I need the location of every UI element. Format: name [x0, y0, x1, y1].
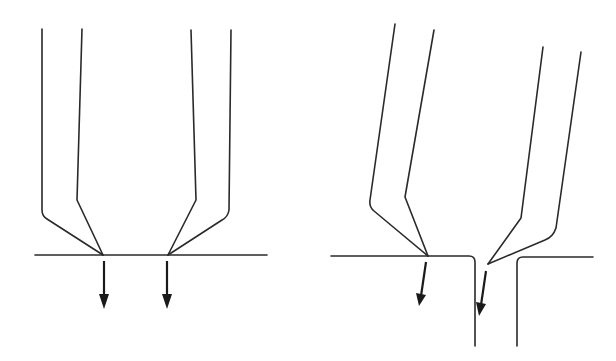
left-panel — [35, 29, 267, 309]
left-beam-inner-left — [77, 29, 103, 255]
left-arrow-1 — [99, 261, 109, 309]
right-beam-inner-right — [488, 47, 543, 264]
right-beam-outer-left — [370, 24, 428, 256]
left-beam-outer-right — [168, 30, 231, 255]
right-arrow-2 — [476, 271, 486, 316]
right-surface-left-with-slot — [331, 256, 475, 346]
left-beam-outer-left — [42, 29, 103, 255]
left-beam-inner-right — [168, 30, 196, 255]
right-surface-right-with-slot — [517, 257, 593, 346]
diagram-canvas — [0, 0, 616, 361]
right-beam-outer-right — [488, 52, 581, 264]
right-beam-inner-left — [405, 30, 434, 256]
right-arrow-1 — [416, 262, 426, 306]
left-arrow-2 — [162, 261, 172, 309]
right-panel — [331, 24, 593, 346]
